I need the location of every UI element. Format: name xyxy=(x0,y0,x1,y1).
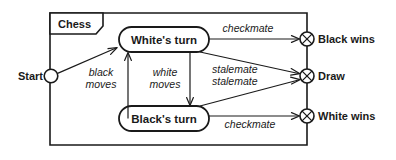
edge-label-checkmate-bottom: checkmate xyxy=(225,118,276,130)
start-node-circle xyxy=(44,69,58,83)
state-white-turn-label: White's turn xyxy=(131,34,197,46)
start-label: Start xyxy=(18,70,43,82)
terminal-draw-label: Draw xyxy=(318,70,345,82)
edge-label-white-moves-line1: white xyxy=(153,66,178,78)
edge-label-white-moves-line2: moves xyxy=(150,78,182,90)
edge-label-black-moves-line2: moves xyxy=(86,78,118,90)
edge-label-stalemate-lower: stalemate xyxy=(212,75,258,87)
state-black-turn-label: Black's turn xyxy=(131,113,196,125)
edge-label-stalemate-upper: stalemate xyxy=(212,63,258,75)
terminal-black-wins-label: Black wins xyxy=(318,33,375,45)
diagram-canvas: Chess Start White's turn Black's turn Bl… xyxy=(0,0,396,160)
terminal-white-wins-label: White wins xyxy=(318,110,375,122)
edge-label-black-moves-line1: black xyxy=(89,66,114,78)
chess-state-diagram: Chess Start White's turn Black's turn Bl… xyxy=(0,0,396,160)
edge-label-checkmate-top: checkmate xyxy=(223,22,274,34)
frame-title-label: Chess xyxy=(58,18,91,30)
